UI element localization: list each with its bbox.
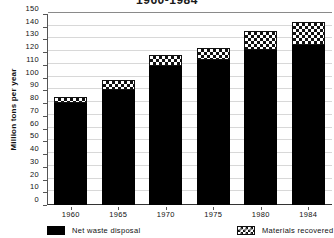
bar-segment-net-waste-disposal-1984[interactable] [292,45,325,205]
bar-segment-materials-recovered-1984[interactable] [292,22,325,45]
bar-segment-net-waste-disposal-1970[interactable] [149,66,182,205]
bar-segment-materials-recovered-1975[interactable] [197,48,230,59]
x-tick-label-1960: 1960 [51,210,91,220]
x-tick-label-1970: 1970 [146,210,186,220]
y-tick-label-0: 0 [35,196,39,203]
bar-group-1975[interactable] [197,48,230,205]
y-tick-label-140: 140 [26,17,39,24]
y-tick-label-40: 40 [30,145,39,152]
bar-group-1970[interactable] [149,55,182,205]
bars-layer [47,14,332,205]
bar-segment-net-waste-disposal-1980[interactable] [244,50,277,205]
bar-group-1984[interactable] [292,22,325,205]
y-tick-label-100: 100 [26,68,39,75]
legend-label: Net waste disposal [72,226,140,235]
bar-segment-net-waste-disposal-1960[interactable] [54,103,87,205]
chart-title: 1960-1984 [0,0,334,5]
bar-group-1960[interactable] [54,97,87,205]
legend-item-net-waste-disposal[interactable]: Net waste disposal [47,224,140,236]
chart-legend: Net waste disposalMaterials recovered [47,224,334,236]
y-tick-label-110: 110 [26,55,39,62]
y-tick-label-80: 80 [30,94,39,101]
y-tick-label-130: 130 [26,30,39,37]
y-tick-label-30: 30 [30,157,39,164]
bar-segment-materials-recovered-1970[interactable] [149,55,182,66]
x-tick-label-1980: 1980 [241,210,281,220]
x-tick-label-1975: 1975 [193,210,233,220]
bar-chart: 1960-1984 Million tons per year 01020304… [0,0,334,238]
bar-group-1965[interactable] [102,80,135,205]
legend-swatch-checker [237,226,255,235]
y-tick-label-50: 50 [30,132,39,139]
y-tick-label-20: 20 [30,170,39,177]
bar-group-1980[interactable] [244,31,277,205]
legend-item-materials-recovered[interactable]: Materials recovered [237,224,334,236]
y-axis-ticks: 0102030405060708090100110120130140150 [0,14,47,206]
legend-swatch-solid [47,226,65,235]
bar-segment-net-waste-disposal-1965[interactable] [102,90,135,205]
y-tick-label-10: 10 [30,183,39,190]
y-tick-label-70: 70 [30,106,39,113]
bar-segment-materials-recovered-1965[interactable] [102,80,135,90]
x-tick-label-1984: 1984 [288,210,328,220]
x-axis-ticks: 196019651970197519801984 [47,207,332,219]
bar-segment-materials-recovered-1980[interactable] [244,31,277,50]
y-tick-label-150: 150 [26,5,39,12]
legend-label: Materials recovered [262,226,334,235]
gridline-150 [48,12,332,13]
bar-segment-materials-recovered-1960[interactable] [54,97,87,103]
x-tick-label-1965: 1965 [98,210,138,220]
y-tick-label-120: 120 [26,43,39,50]
y-tick-label-90: 90 [30,81,39,88]
y-tick-mark-0 [43,205,47,206]
y-tick-label-60: 60 [30,119,39,126]
bar-segment-net-waste-disposal-1975[interactable] [197,60,230,205]
